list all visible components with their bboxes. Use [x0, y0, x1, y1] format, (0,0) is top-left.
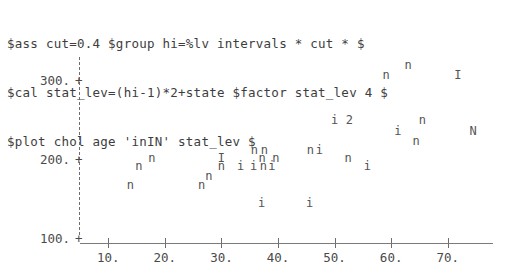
x-axis-line: [80, 243, 493, 244]
x-axis-tick-label: 20.: [154, 252, 177, 265]
x-axis-tick-label: 50.: [323, 252, 346, 265]
data-point-n: n: [419, 114, 426, 126]
x-axis-tick-label: 70.: [436, 252, 459, 265]
x-axis-tick-label: 10.: [97, 252, 120, 265]
y-axis-tick-label: 100.: [32, 233, 70, 246]
data-point-n: n: [412, 135, 419, 147]
data-point-n: n: [127, 179, 134, 191]
data-point-n: n: [345, 152, 352, 164]
data-point-i: i: [316, 144, 323, 156]
data-point-n: n: [251, 144, 258, 156]
y-axis-tick-label: 200.: [32, 154, 70, 167]
data-point-i: i: [268, 160, 275, 172]
data-point-i: i: [237, 160, 244, 172]
data-point-i: i: [331, 114, 338, 126]
x-axis-tick-label: 30.: [210, 252, 233, 265]
data-point-n: n: [148, 152, 155, 164]
data-point-n: n: [205, 170, 212, 182]
x-axis-tick-label: 60.: [380, 252, 403, 265]
data-point-n: n: [382, 69, 389, 81]
data-point-n: n: [260, 160, 267, 172]
scatter-plot: 10.20.30.40.50.60.70.+100.+200.+300. nnI…: [0, 0, 507, 279]
data-point-i: i: [394, 125, 401, 137]
data-point-n: n: [198, 179, 205, 191]
x-axis-tick-label: 40.: [267, 252, 290, 265]
data-point-n: n: [405, 59, 412, 71]
data-point-i: i: [306, 197, 313, 209]
data-point-i: i: [364, 160, 371, 172]
y-axis-tick: +: [75, 75, 83, 88]
data-point-i: i: [250, 160, 257, 172]
data-point-n: n: [135, 160, 142, 172]
data-point-i: i: [258, 197, 265, 209]
y-axis-tick: +: [75, 154, 83, 167]
y-axis-tick-label: 300.: [32, 75, 70, 88]
data-point-n: n: [307, 144, 314, 156]
data-point-2: 2: [346, 114, 353, 126]
data-point-I: I: [454, 69, 461, 81]
data-point-N: N: [470, 125, 477, 137]
data-point-n: n: [218, 160, 225, 172]
plot-screenshot: $ass cut=0.4 $group hi=%lv intervals * c…: [0, 0, 507, 279]
